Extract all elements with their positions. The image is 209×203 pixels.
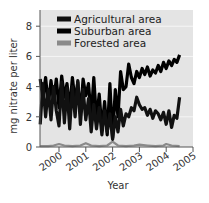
x-tick-label: 2003 [117, 150, 144, 174]
x-tick-label: 2002 [91, 150, 118, 174]
y-tick-label: 0 [26, 142, 32, 153]
x-tick-label: 2005 [171, 150, 198, 174]
nitrate-line-chart: 02468 200020012002200320042005 mg nitrat… [0, 0, 209, 203]
legend-label: Suburban area [74, 25, 151, 37]
y-axis-ticks: 02468 [26, 21, 40, 153]
legend-swatch [57, 41, 71, 46]
legend-swatch [57, 17, 71, 22]
y-axis-label: mg nitrate per liter [8, 37, 19, 133]
legend-label: Forested area [74, 37, 146, 49]
y-tick-label: 2 [26, 112, 32, 123]
legend-swatch [57, 29, 71, 34]
x-tick-label: 2001 [64, 150, 91, 174]
x-axis-label: Year [106, 180, 129, 191]
legend-label: Agricultural area [74, 13, 162, 25]
y-tick-label: 4 [26, 82, 32, 93]
x-tick-label: 2004 [144, 150, 171, 174]
y-tick-label: 8 [26, 21, 32, 32]
y-tick-label: 6 [26, 51, 32, 62]
x-tick-label: 2000 [37, 150, 64, 174]
x-axis-ticks: 200020012002200320042005 [37, 147, 198, 173]
